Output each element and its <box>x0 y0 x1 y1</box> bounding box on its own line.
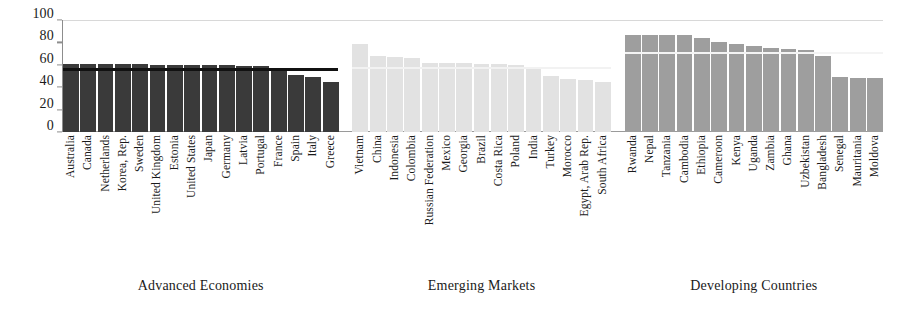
bar <box>763 48 779 132</box>
y-tick-label: 100 <box>32 7 54 21</box>
category-label: Uganda <box>746 133 762 259</box>
group-caption: Advanced Economies <box>63 278 338 294</box>
category-label-text: Russian Federation <box>424 135 436 225</box>
bar <box>798 50 814 132</box>
bar <box>560 79 576 132</box>
bar <box>167 65 183 132</box>
bar <box>288 75 304 132</box>
category-label-text: Uzbekistan <box>800 135 812 188</box>
bar <box>352 44 368 132</box>
bar <box>404 58 420 132</box>
category-label: Ethiopia <box>694 133 710 259</box>
category-label: United Kingdom <box>150 133 166 259</box>
category-label: Tanzania <box>659 133 675 259</box>
category-label-text: Latvia <box>238 135 250 165</box>
bar <box>526 69 542 132</box>
bar <box>132 64 148 132</box>
category-label-text: Tanzania <box>662 135 674 177</box>
category-label-text: Nepal <box>644 135 656 163</box>
category-label: Kenya <box>729 133 745 259</box>
category-label-text: India <box>528 135 540 159</box>
category-label-text: Sweden <box>134 135 146 172</box>
bar <box>595 82 611 132</box>
y-tick-mark <box>57 19 62 20</box>
category-label-text: Vietnam <box>355 135 367 175</box>
category-label-text: Korea, Rep. <box>117 135 129 191</box>
category-label-text: Egypt, Arab Rep. <box>580 135 592 216</box>
bar <box>850 78 866 132</box>
category-label-group: RwandaNepalTanzaniaCambodiaEthiopiaCamer… <box>625 133 883 261</box>
bar <box>711 42 727 132</box>
category-label-text: Costa Rica <box>493 135 505 186</box>
bar-chart: 020406080100 AustraliaCanadaNetherlandsK… <box>0 0 899 312</box>
y-tick-mark <box>57 64 62 65</box>
y-tick-mark <box>57 131 62 132</box>
category-label: Mexico <box>439 133 455 259</box>
category-label-text: Brazil <box>476 135 488 164</box>
y-tick-label: 40 <box>40 74 54 88</box>
group-average-line <box>625 52 883 54</box>
category-label: Morocco <box>560 133 576 259</box>
bar <box>422 63 438 132</box>
category-label-text: Canada <box>82 135 94 170</box>
category-label-text: Kenya <box>731 135 743 166</box>
category-label-text: Ethiopia <box>696 135 708 175</box>
bar <box>508 65 524 132</box>
bar <box>253 66 269 132</box>
category-label: Costa Rica <box>491 133 507 259</box>
category-label-text: China <box>372 135 384 163</box>
category-label-text: Germany <box>221 135 233 179</box>
category-label-text: Australia <box>65 135 77 178</box>
category-label-text: Indonesia <box>389 135 401 181</box>
bar <box>63 64 79 132</box>
category-label: Netherlands <box>98 133 114 259</box>
category-label-text: United States <box>186 135 198 198</box>
category-label: France <box>271 133 287 259</box>
bar <box>867 78 883 132</box>
bar <box>98 64 114 132</box>
bar <box>439 63 455 132</box>
bar <box>781 49 797 132</box>
bar <box>625 35 641 132</box>
category-label-text: Spain <box>290 135 302 162</box>
y-tick-mark <box>57 87 62 88</box>
category-label: Japan <box>202 133 218 259</box>
category-label: India <box>526 133 542 259</box>
category-label-text: Italy <box>308 135 320 157</box>
category-label: United States <box>184 133 200 259</box>
y-tick-mark <box>57 42 62 43</box>
category-label-text: Poland <box>510 135 522 168</box>
category-label: Uzbekistan <box>798 133 814 259</box>
bar <box>832 77 848 132</box>
category-label-text: Morocco <box>562 135 574 177</box>
category-label: Brazil <box>474 133 490 259</box>
category-label: Cambodia <box>677 133 693 259</box>
bar <box>80 64 96 132</box>
group-average-line <box>63 68 338 71</box>
category-label: Greece <box>323 133 339 259</box>
category-label: Spain <box>288 133 304 259</box>
bar-group <box>625 20 883 132</box>
category-label: Estonia <box>167 133 183 259</box>
category-label-text: Zambia <box>765 135 777 171</box>
category-label: Australia <box>63 133 79 259</box>
category-label: Germany <box>219 133 235 259</box>
category-label: Latvia <box>236 133 252 259</box>
bar <box>184 65 200 132</box>
y-tick-label: 80 <box>40 29 54 43</box>
category-label: Egypt, Arab Rep. <box>578 133 594 259</box>
category-label: Ghana <box>781 133 797 259</box>
category-label-text: France <box>273 135 285 167</box>
category-label: Indonesia <box>387 133 403 259</box>
group-caption: Emerging Markets <box>352 278 610 294</box>
bar <box>746 46 762 132</box>
category-label: Mauritania <box>850 133 866 259</box>
category-label-text: United Kingdom <box>152 135 164 214</box>
category-label: Turkey <box>543 133 559 259</box>
category-label-text: Japan <box>204 135 216 162</box>
y-tick-label: 60 <box>40 52 54 66</box>
category-label-text: Senegal <box>835 135 847 172</box>
bar <box>150 65 166 132</box>
category-label-text: Rwanda <box>627 135 639 173</box>
y-tick-label: 0 <box>47 119 54 133</box>
